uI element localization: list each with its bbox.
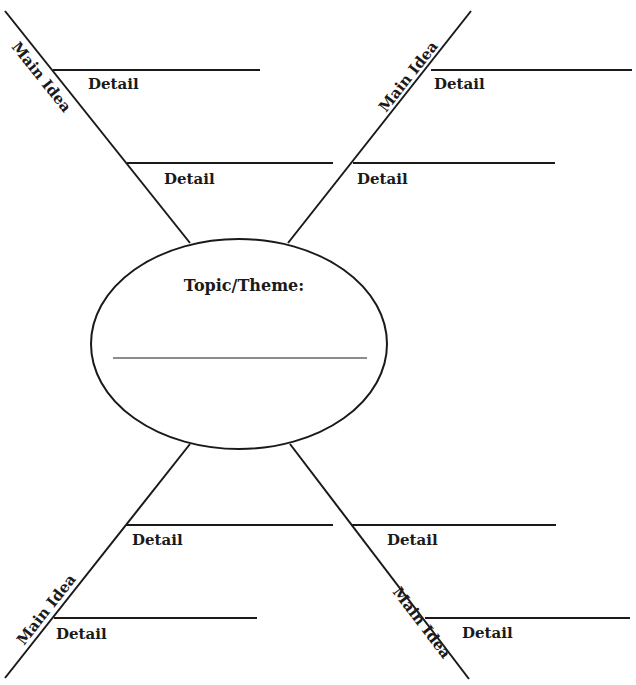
branch-bottom-left: Main Idea Detail Detail: [5, 444, 333, 678]
topic-theme-label: Topic/Theme:: [184, 276, 304, 295]
detail-label-top-right-2: Detail: [357, 170, 408, 188]
main-idea-line-top-left[interactable]: [5, 11, 190, 243]
detail-label-bottom-left-1: Detail: [132, 531, 183, 549]
detail-label-top-left-1: Detail: [88, 75, 139, 93]
main-idea-organizer-diagram: Topic/Theme: Main Idea Detail Detail Mai…: [0, 0, 636, 685]
topic-theme-node: Topic/Theme:: [91, 239, 387, 449]
detail-label-bottom-right-1: Detail: [387, 531, 438, 549]
detail-label-bottom-left-2: Detail: [56, 625, 107, 643]
main-idea-line-top-right[interactable]: [288, 11, 471, 243]
detail-label-top-left-2: Detail: [164, 170, 215, 188]
branch-top-left: Main Idea Detail Detail: [5, 11, 333, 243]
main-idea-label-top-left: Main Idea: [8, 38, 75, 116]
detail-label-bottom-right-2: Detail: [462, 624, 513, 642]
main-idea-label-bottom-right: Main Idea: [389, 584, 455, 663]
detail-label-top-right-1: Detail: [434, 75, 485, 93]
topic-ellipse: [91, 239, 387, 449]
branch-bottom-right: Main Idea Detail Detail: [290, 444, 630, 679]
main-idea-label-top-right: Main Idea: [375, 37, 442, 115]
branch-top-right: Main Idea Detail Detail: [288, 11, 632, 243]
